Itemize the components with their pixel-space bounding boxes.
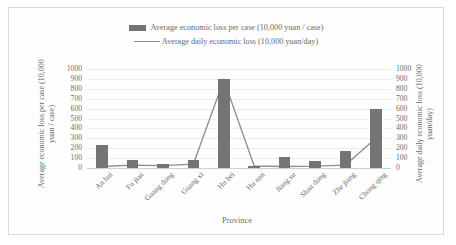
axis-tick-label: 300	[393, 134, 419, 142]
legend-label-bar-series: Average economic loss per case (10,000 y…	[151, 22, 324, 33]
y-axis-left-title: Average economic loss per case (10,000 y…	[37, 56, 57, 192]
bar	[309, 161, 321, 168]
y-axis-left-ticklabels: 01002003004005006007008009001000	[59, 69, 85, 168]
axis-tick-label: 1000	[393, 65, 419, 73]
axis-tick-label: 400	[393, 124, 419, 132]
bar	[218, 79, 230, 168]
axis-tick-label: 0	[393, 164, 419, 172]
bar	[127, 160, 139, 168]
chart-frame: Average economic loss per case (10,000 y…	[8, 7, 444, 235]
legend-label-line-series: Average daily economic loss (10,000 yuan…	[162, 36, 318, 47]
plot-area	[87, 69, 391, 168]
bar	[96, 145, 108, 168]
bar	[370, 109, 382, 168]
legend-line-swatch-icon	[134, 41, 160, 42]
axis-tick-label: 100	[393, 154, 419, 162]
bar	[157, 164, 169, 168]
axis-tick-label: 600	[59, 105, 85, 113]
legend-bar-swatch-icon	[129, 25, 146, 31]
bar	[248, 166, 260, 168]
axis-tick-label: 700	[59, 95, 85, 103]
chart-legend: Average economic loss per case (10,000 y…	[9, 22, 443, 47]
axis-tick-label: 500	[393, 115, 419, 123]
axis-tick-label: 100	[59, 154, 85, 162]
bar	[188, 160, 200, 168]
axis-tick-label: 0	[59, 164, 85, 172]
axis-tick-label: 200	[393, 144, 419, 152]
x-axis-title: Province	[9, 216, 456, 225]
axis-tick-label: 900	[59, 75, 85, 83]
x-axis-category-labels: An huiFu jianGuang dongGuang xiHu beiHu …	[87, 170, 391, 216]
bar	[279, 157, 291, 168]
axis-tick-label: 800	[393, 85, 419, 93]
legend-item-line-series: Average daily economic loss (10,000 yuan…	[9, 36, 443, 47]
axis-tick-label: 300	[59, 134, 85, 142]
y-axis-right-ticklabels: 01002003004005006007008009001000	[393, 69, 419, 168]
bar	[340, 151, 352, 168]
line-series-path	[102, 80, 376, 167]
axis-tick-label: 800	[59, 85, 85, 93]
gridline	[87, 168, 391, 169]
axis-tick-label: 200	[59, 144, 85, 152]
axis-tick-label: 900	[393, 75, 419, 83]
x-axis-category-label: An hui	[0, 170, 115, 245]
axis-tick-label: 1000	[59, 65, 85, 73]
axis-tick-label: 700	[393, 95, 419, 103]
axis-tick-label: 500	[59, 115, 85, 123]
axis-tick-label: 400	[59, 124, 85, 132]
legend-item-bar-series: Average economic loss per case (10,000 y…	[9, 22, 443, 33]
axis-tick-label: 600	[393, 105, 419, 113]
